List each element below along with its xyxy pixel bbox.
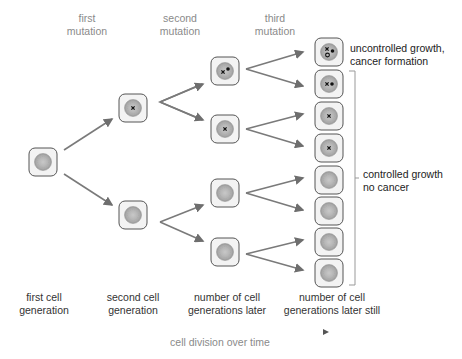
timeline-label: cell division over time [150, 336, 290, 349]
mutation-label-third: third mutation [250, 12, 300, 37]
arrows-gen2 [160, 84, 203, 241]
mutation-label-second: second mutation [155, 12, 205, 37]
outcome-line: controlled growth [363, 168, 443, 181]
arrows-gen1 [64, 119, 112, 205]
generation-label-line: number of cell [277, 291, 387, 304]
generation-label-line: generation [14, 304, 74, 317]
generation-label-fourth: number of cell generations later still [277, 291, 387, 316]
cell-gen4-two-mutations [315, 70, 343, 98]
cell-gen2-normal [119, 201, 147, 229]
mutation-label-line: mutation [155, 25, 205, 38]
cell-gen3-one-mutation [211, 115, 239, 143]
cancer-outcome-label: uncontrolled growth, cancer formation [350, 42, 445, 67]
generation-label-line: generation [98, 304, 168, 317]
cell-gen4-normal [315, 259, 343, 287]
generation-label-second: second cell generation [98, 291, 168, 316]
cell-gen1 [29, 148, 57, 176]
generation-label-third: number of cell generations later [180, 291, 274, 316]
generation-label-line: first cell [14, 291, 74, 304]
cell-gen3-normal [211, 179, 239, 207]
no-cancer-outcome-label: controlled growth no cancer [363, 168, 443, 193]
outcome-line: uncontrolled growth, [350, 42, 445, 55]
cell-gen4-normal [315, 166, 343, 194]
generation-label-line: generations later still [277, 304, 387, 317]
cell-gen4-one-mutation [315, 134, 343, 162]
mutation-label-line: second [155, 12, 205, 25]
cell-gen3-two-mutations [211, 57, 239, 85]
mutation-label-line: mutation [250, 25, 300, 38]
cell-gen4-normal [315, 228, 343, 256]
generation-label-line: number of cell [180, 291, 274, 304]
cell-gen4-normal [315, 197, 343, 225]
mutation-label-line: third [250, 12, 300, 25]
no-cancer-bracket [349, 71, 359, 285]
cell-gen3-normal [211, 238, 239, 266]
generation-label-line: generations later [180, 304, 274, 317]
generation-label-first: first cell generation [14, 291, 74, 316]
outcome-line: no cancer [363, 181, 443, 194]
arrows-gen3 [246, 52, 303, 270]
generation-label-line: second cell [98, 291, 168, 304]
mutation-label-first: first mutation [62, 12, 112, 37]
cell-gen2-mutated [119, 94, 147, 122]
mutation-label-line: mutation [62, 25, 112, 38]
cell-gen4-cancer [315, 38, 343, 66]
cell-gen4-one-mutation [315, 102, 343, 130]
outcome-line: cancer formation [350, 55, 445, 68]
mutation-label-line: first [62, 12, 112, 25]
